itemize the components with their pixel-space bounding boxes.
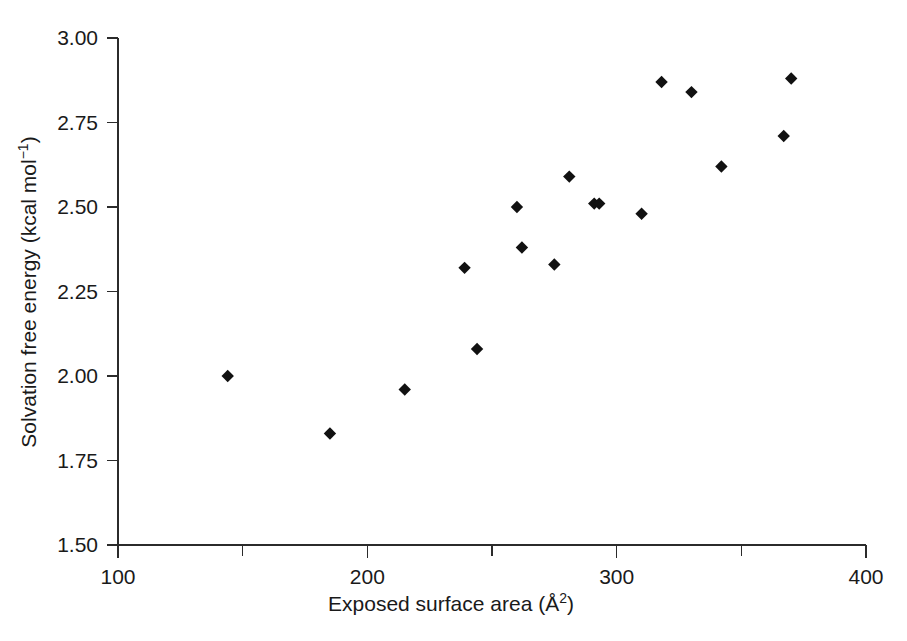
data-points [222, 72, 798, 439]
data-point-marker [458, 262, 470, 274]
data-point-marker [635, 208, 647, 220]
scatter-chart-figure: 1.501.752.002.252.502.753.00 10020030040… [0, 0, 907, 641]
data-point-marker [563, 170, 575, 182]
y-tick-label: 3.00 [57, 26, 98, 49]
data-point-marker [655, 76, 667, 88]
data-point-marker [324, 427, 336, 439]
y-tick-label: 2.75 [57, 111, 98, 134]
plot-canvas: 1.501.752.002.252.502.753.00 10020030040… [0, 0, 907, 641]
data-point-marker [685, 86, 697, 98]
data-point-marker [778, 130, 790, 142]
data-point-marker [222, 370, 234, 382]
data-point-marker [471, 343, 483, 355]
x-tick-label: 100 [100, 565, 135, 588]
x-axis-ticks: 100200300400 [100, 545, 883, 588]
data-point-marker [516, 241, 528, 253]
x-tick-label: 200 [350, 565, 385, 588]
y-tick-label: 1.50 [57, 533, 98, 556]
y-tick-label: 2.00 [57, 364, 98, 387]
y-axis-title: Solvation free energy (kcal mol−1) [15, 136, 40, 447]
data-point-marker [399, 383, 411, 395]
data-point-marker [548, 258, 560, 270]
x-tick-label: 300 [599, 565, 634, 588]
data-point-marker [785, 72, 797, 84]
y-tick-label: 2.25 [57, 280, 98, 303]
y-axis-ticks: 1.501.752.002.252.502.753.00 [57, 26, 118, 556]
x-tick-label: 400 [848, 565, 883, 588]
x-axis-title: Exposed surface area (Å2) [328, 590, 574, 615]
data-point-marker [715, 160, 727, 172]
y-tick-label: 2.50 [57, 195, 98, 218]
data-point-marker [511, 201, 523, 213]
y-tick-label: 1.75 [57, 449, 98, 472]
